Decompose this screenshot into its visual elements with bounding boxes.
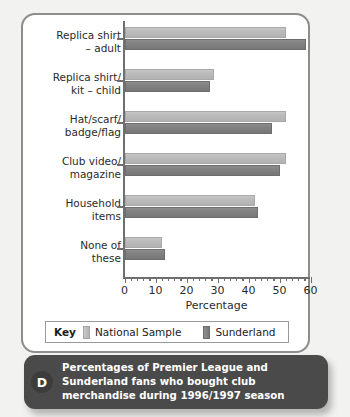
legend-label-national-sample: National Sample — [95, 326, 181, 338]
category-label-line2: badge/flag — [25, 126, 121, 139]
x-axis-tick-label-20: 20 — [180, 284, 194, 297]
x-axis-tick-40 — [249, 277, 250, 283]
legend-label-sunderland: Sunderland — [215, 326, 275, 338]
category-label-line2: – adult — [25, 42, 121, 55]
x-axis-tick-46 — [267, 277, 268, 281]
x-axis-tick-56 — [298, 277, 299, 281]
y-axis-tick-1 — [117, 80, 124, 82]
category-label-hat-scarf-badge-flag: Hat/scarf/ badge/flag — [25, 113, 121, 138]
category-label-line1: Club video/ — [25, 155, 121, 168]
x-axis-tick-24 — [199, 277, 200, 281]
x-axis-tick-20 — [187, 277, 188, 283]
y-axis-tick-2 — [117, 122, 124, 124]
plot-area: Replica shirt – adult Replica shirt/ kit… — [23, 15, 312, 315]
x-axis-tick-4 — [137, 277, 138, 281]
category-label-club-video-magazine: Club video/ magazine — [25, 155, 121, 180]
bar-national-sample-5 — [125, 237, 162, 248]
y-axis-tick-5 — [117, 248, 124, 250]
x-axis-tick-36 — [236, 277, 237, 281]
bar-national-sample-0 — [125, 27, 286, 38]
chart-panel: Replica shirt – adult Replica shirt/ kit… — [21, 13, 310, 353]
legend-key-label: Key — [54, 326, 76, 338]
x-axis-tick-28 — [211, 277, 212, 281]
x-axis-tick-8 — [149, 277, 150, 281]
x-axis-tick-26 — [205, 277, 206, 281]
bar-national-sample-3 — [125, 153, 286, 164]
x-axis-tick-12 — [162, 277, 163, 281]
x-axis-tick-18 — [180, 277, 181, 281]
bar-sunderland-5 — [125, 249, 165, 260]
x-axis-tick-label-60: 60 — [304, 284, 318, 297]
x-axis-tick-label-40: 40 — [242, 284, 256, 297]
x-axis-tick-0 — [125, 277, 126, 283]
x-axis-tick-32 — [224, 277, 225, 281]
category-label-line2: items — [25, 210, 121, 223]
category-label-line1: None of — [25, 239, 121, 252]
x-axis-tick-22 — [193, 277, 194, 281]
x-axis-title: Percentage — [123, 299, 310, 312]
x-axis-tick-30 — [218, 277, 219, 283]
legend-swatch-national-sample — [83, 326, 90, 339]
bar-national-sample-2 — [125, 111, 286, 122]
category-label-none-of-these: None of these — [25, 239, 121, 264]
category-label-line2: these — [25, 252, 121, 265]
x-axis-tick-2 — [131, 277, 132, 281]
x-axis-tick-50 — [280, 277, 281, 283]
x-axis-tick-44 — [261, 277, 262, 281]
x-axis-tick-52 — [286, 277, 287, 281]
x-axis-tick-14 — [168, 277, 169, 281]
category-label-line1: Hat/scarf/ — [25, 113, 121, 126]
y-axis-tick-0 — [117, 38, 124, 40]
category-label-replica-shirt-child: Replica shirt/ kit – child — [25, 71, 121, 96]
caption-bar: D Percentages of Premier League and Sund… — [24, 355, 328, 409]
x-axis-tick-58 — [304, 277, 305, 281]
x-axis-tick-16 — [174, 277, 175, 281]
legend: Key National Sample Sunderland — [45, 321, 289, 343]
bar-sunderland-2 — [125, 123, 272, 134]
x-axis-tick-label-10: 10 — [149, 284, 163, 297]
bar-sunderland-1 — [125, 81, 210, 92]
category-label-line2: kit – child — [25, 84, 121, 97]
caption-text: Percentages of Premier League and Sunder… — [62, 361, 320, 403]
bar-sunderland-3 — [125, 165, 280, 176]
x-axis-tick-42 — [255, 277, 256, 281]
x-axis-tick-54 — [292, 277, 293, 281]
category-axis-labels: Replica shirt – adult Replica shirt/ kit… — [25, 23, 121, 273]
bar-sunderland-4 — [125, 207, 258, 218]
x-axis-tick-6 — [143, 277, 144, 281]
category-label-line2: magazine — [25, 168, 121, 181]
category-label-line1: Replica shirt/ — [25, 71, 121, 84]
x-axis-tick-60 — [311, 277, 312, 283]
x-axis-line — [123, 277, 310, 279]
x-axis-tick-label-50: 50 — [273, 284, 287, 297]
legend-entry-national-sample: National Sample — [83, 326, 181, 339]
category-label-household-items: Household items — [25, 197, 121, 222]
legend-swatch-sunderland — [203, 326, 210, 339]
x-axis-tick-10 — [156, 277, 157, 283]
y-axis-tick-3 — [117, 164, 124, 166]
bars-container — [125, 21, 311, 277]
x-axis-tick-label-30: 30 — [211, 284, 225, 297]
legend-entry-sunderland: Sunderland — [203, 326, 275, 339]
category-label-line1: Replica shirt — [25, 29, 121, 42]
category-label-line1: Household — [25, 197, 121, 210]
bar-sunderland-0 — [125, 39, 306, 50]
x-axis-tick-label-0: 0 — [121, 284, 128, 297]
x-axis-tick-48 — [273, 277, 274, 281]
x-axis-tick-38 — [242, 277, 243, 281]
category-label-replica-shirt-adult: Replica shirt – adult — [25, 29, 121, 54]
caption-badge: D — [31, 371, 53, 393]
x-axis-tick-34 — [230, 277, 231, 281]
y-axis-tick-4 — [117, 206, 124, 208]
bar-national-sample-4 — [125, 195, 255, 206]
bar-national-sample-1 — [125, 69, 215, 80]
